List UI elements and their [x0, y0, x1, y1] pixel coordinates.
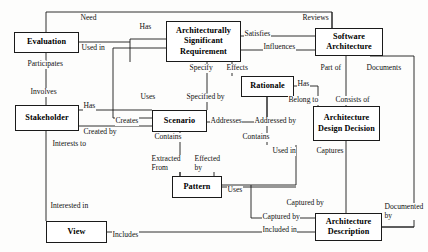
edge-label-addressed-by: Addressed by: [254, 117, 297, 126]
edge-label-documented-by: Documented by: [384, 203, 427, 220]
edge-label-captured-by: Captured by: [262, 213, 300, 222]
node-architecture-design-decision-label: Architecture Design Decision: [314, 113, 379, 134]
node-pattern[interactable]: Pattern: [172, 176, 222, 198]
edge-label-addresses: Addresses: [210, 117, 242, 126]
edge-label-contains-rationale: Contains: [242, 133, 270, 142]
edge-label-need: Need: [80, 14, 97, 23]
node-view-label: View: [66, 227, 88, 237]
edge-label-included-in: Included in: [262, 226, 297, 235]
edge-label-consists-of: Consists of: [335, 96, 370, 105]
edge-label-belong-to: Belong to: [288, 96, 319, 105]
node-stakeholder[interactable]: Stakeholder: [15, 105, 79, 131]
node-asr-label: Architecturally Significant Requirement: [167, 26, 240, 57]
edge-label-specify: Specify: [189, 64, 213, 73]
node-rationale[interactable]: Rationale: [241, 76, 294, 97]
node-stakeholder-label: Stakeholder: [23, 113, 70, 123]
edge-label-created-by: Created by: [83, 128, 117, 137]
edge-label-captures: Captures: [316, 147, 344, 156]
edge-label-specified-by: Specified by: [186, 93, 225, 102]
edge-label-uses-scenario: Uses: [140, 93, 156, 102]
edge-label-influences: Influences: [263, 43, 296, 52]
edge-label-includes: Includes: [112, 231, 139, 240]
edge-label-extracted-from: Extracted From: [151, 155, 181, 172]
node-scenario-label: Scenario: [162, 116, 197, 126]
edge-label-part-of: Part of: [320, 64, 341, 73]
edge-label-uses-pattern: Uses: [227, 186, 243, 195]
edge-label-effects: Effects: [226, 64, 248, 73]
node-evaluation-label: Evaluation: [25, 37, 68, 47]
edge-label-reviews: Reviews: [302, 14, 329, 23]
edge-label-satisfies: Satisfies: [244, 30, 271, 39]
edge-label-interests-to: Interests to: [52, 140, 87, 149]
node-architecture-description[interactable]: Architecture Description: [315, 213, 382, 241]
edge-label-effected-by: Effected by: [194, 155, 221, 172]
edge-label-involves: Involves: [30, 88, 57, 97]
edge-label-documents: Documents: [366, 64, 402, 73]
edge-label-interested-in: Interested in: [50, 202, 89, 211]
architecture-knowledge-diagram: Evaluation Stakeholder View Scenario Pat…: [0, 0, 428, 252]
node-rationale-label: Rationale: [248, 81, 287, 91]
node-scenario[interactable]: Scenario: [152, 110, 207, 132]
edge-label-has-top: Has: [139, 23, 152, 32]
node-software-architecture-label: Software Architecture: [316, 32, 382, 53]
edge-label-creates: Creates: [115, 117, 139, 126]
edge-label-contains-scenario: Contains: [154, 133, 182, 142]
edge-label-used-in-decision: Used in: [272, 147, 296, 156]
node-pattern-label: Pattern: [181, 182, 212, 192]
edge-label-participates: Participates: [27, 60, 63, 69]
node-view[interactable]: View: [46, 221, 107, 243]
node-architecture-description-label: Architecture Description: [316, 217, 381, 238]
node-software-architecture[interactable]: Software Architecture: [315, 28, 383, 56]
edge-label-has-stakeholder: Has: [83, 102, 96, 111]
edge-label-has-rationale: Has: [297, 80, 310, 89]
edge-label-captured-by-decision: Captured by: [286, 199, 324, 208]
node-architecturally-significant-requirement[interactable]: Architecturally Significant Requirement: [166, 21, 241, 62]
node-evaluation[interactable]: Evaluation: [14, 32, 79, 53]
edge-label-used-in-top: Used in: [81, 44, 105, 53]
node-architecture-design-decision[interactable]: Architecture Design Decision: [313, 106, 380, 141]
